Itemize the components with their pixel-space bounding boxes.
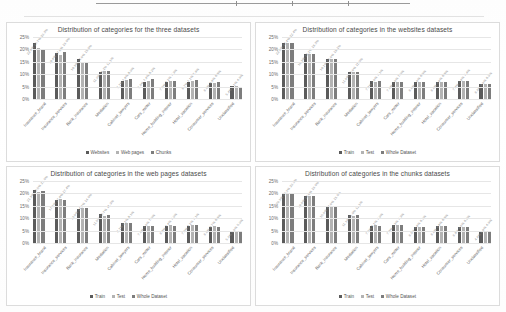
legend-item[interactable]: Train (339, 294, 354, 299)
legend-label: Train (344, 150, 354, 155)
bar-group: 17.2% 17.6% 17.4% (55, 181, 67, 243)
gridline (33, 74, 242, 75)
bar-group: 7.1% 7.6% 8.0% (121, 37, 133, 99)
gridline (282, 62, 491, 63)
bar (290, 43, 293, 99)
plot-area: 21.3% 20.5% 21.0%17.2% 17.6% 17.4%13.9% … (33, 181, 242, 243)
legend-swatch-icon (339, 295, 342, 298)
chart-title: Distribution of categories in the chunks… (256, 170, 499, 177)
bar (217, 82, 220, 99)
bar-group: 13.9% 14.2% 14.0% (77, 181, 89, 243)
bar (173, 81, 176, 99)
y-axis-ticks: 0%5%10%15%20%25% (256, 37, 280, 99)
x-axis-tick-label: Unclassified (216, 101, 235, 121)
y-axis-tick-label: 25% (269, 179, 278, 184)
bar (400, 82, 403, 99)
bar (282, 43, 285, 99)
bar (330, 59, 333, 99)
bar (191, 225, 194, 243)
bar (312, 196, 315, 243)
legend-item[interactable]: Test (361, 150, 374, 155)
x-axis-tick-label: Unclassified (465, 101, 484, 121)
legend-label: Train (344, 294, 354, 299)
legend-item[interactable]: Chunks (151, 150, 171, 155)
x-axis-tick-label: Unclassified (465, 245, 484, 265)
bar (444, 226, 447, 243)
gridline (282, 206, 491, 207)
bar-group: 6.8% 6.9% 6.8% (436, 37, 448, 99)
bar-group: 7.0% 7.2% 7.3% (165, 37, 177, 99)
x-axis-tick-label: Cars_motor (133, 101, 151, 121)
gridline (282, 193, 491, 194)
bar (33, 43, 36, 99)
bar (195, 80, 198, 99)
bar (356, 72, 359, 99)
y-axis-tick-label: 0% (22, 241, 29, 246)
y-axis-tick-label: 25% (269, 35, 278, 40)
legend-label: Test (366, 294, 374, 299)
legend-item[interactable]: Train (339, 150, 354, 155)
gridline (282, 181, 491, 182)
legend-label: Test (366, 150, 374, 155)
bar (55, 53, 58, 99)
legend-item[interactable]: Whole Dataset (132, 294, 167, 299)
bar-series-container: 21.3% 20.5% 21.0%17.2% 17.6% 17.4%13.9% … (33, 181, 242, 243)
bar-group: 6.8% 7.4% 7.0% (165, 181, 177, 243)
bar-group: 6.6% 6.7% 6.6% (209, 181, 221, 243)
y-axis-tick-label: 25% (20, 179, 29, 184)
legend-item[interactable]: Test (112, 294, 125, 299)
y-axis-ticks: 0%5%10%15%20%25% (7, 37, 31, 99)
bar (352, 72, 355, 99)
gridline (282, 37, 491, 38)
bar (151, 226, 154, 243)
bar (334, 59, 337, 99)
bar-group: 7.0% 7.2% 7.1% (187, 181, 199, 243)
bar (213, 83, 216, 99)
gridline (282, 74, 491, 75)
legend-item[interactable]: Test (361, 294, 374, 299)
bar-group: 19.0% 18.9% 19.0% (304, 181, 316, 243)
bar-series-container: 20.3% 20.3% 20.3%19.0% 18.9% 19.0%15.0% … (282, 181, 491, 243)
bar (422, 227, 425, 243)
x-axis-tick-label: Cars_motor (382, 245, 400, 265)
x-axis-category-labels: Insurance_brandInsurance_servicesBank_in… (282, 101, 491, 147)
bar-group: 18.4% 17.8% 19.0% (55, 37, 67, 99)
bar-group: 7.4% 7.4% 7.4% (458, 37, 470, 99)
bar (312, 54, 315, 99)
bar-group: 22.5% 22.4% 22.4% (282, 37, 294, 99)
legend-item[interactable]: Train (90, 294, 105, 299)
legend-swatch-icon (361, 295, 364, 298)
page-top-rule (96, 3, 410, 4)
legend-item[interactable]: Websites (86, 150, 110, 155)
bar-group: 22.4% 20.7% 20.3% (33, 37, 45, 99)
y-axis-tick-label: 0% (22, 97, 29, 102)
bar (440, 82, 443, 99)
y-axis-tick-label: 10% (20, 72, 29, 77)
legend-item[interactable]: Whole Dataset (381, 294, 416, 299)
gridline (33, 62, 242, 63)
bar-group: 21.3% 20.5% 21.0% (33, 181, 45, 243)
bar-group: 11.5% 10.7% 11.3% (99, 181, 111, 243)
x-axis-tick-label: Bank_insurance (65, 101, 89, 127)
bar (308, 196, 311, 243)
bar (125, 223, 128, 243)
x-axis-tick-label: Cars_motor (382, 101, 400, 121)
x-axis-tick-label: Hotel_vacation (171, 245, 193, 269)
bar-group: 6.9% 7.0% 6.9% (414, 37, 426, 99)
bar (85, 208, 88, 243)
bar (374, 225, 377, 243)
bar (462, 227, 465, 243)
y-axis-tick-label: 5% (22, 84, 29, 89)
bar (33, 190, 36, 243)
x-axis-tick-label: Cabinet_lawyers (355, 245, 379, 271)
y-axis-tick-label: 25% (20, 35, 29, 40)
chart-panel-web-pages-datasets: Distribution of categories in the web pa… (6, 166, 251, 306)
legend-item[interactable]: Whole Dataset (381, 150, 416, 155)
y-axis-tick-label: 0% (271, 241, 278, 246)
bar-group: 8.1% 8.1% 8.1% (121, 181, 133, 243)
bar-group: 6.7% 7.1% 7.6% (187, 37, 199, 99)
bar (374, 82, 377, 99)
bar-group: 16.3% 14.9% 15.0% (77, 37, 89, 99)
legend-item[interactable]: Web pages (116, 150, 144, 155)
bar-group: 11.0% 10.9% 11.0% (348, 37, 360, 99)
